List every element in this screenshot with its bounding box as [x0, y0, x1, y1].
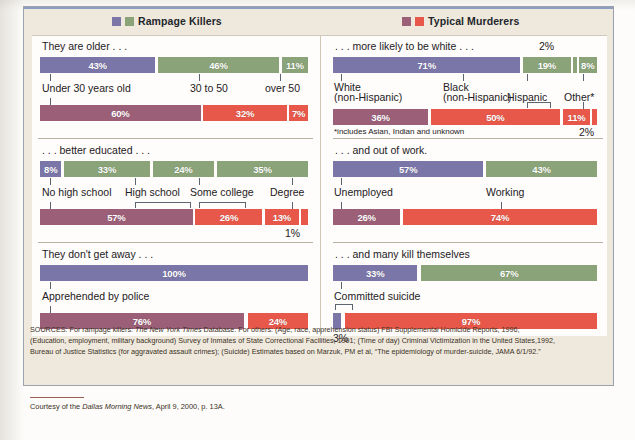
- block-race-title: . . . more likely to be white . . .: [335, 40, 474, 52]
- label-edu-nohs: No high school: [42, 186, 111, 198]
- block-suicide-bar-rampage: 33% 67%: [333, 265, 597, 281]
- seg-race-r-hispanic: [573, 57, 577, 73]
- courtesy-note: Courtesy of the Dallas Morning News, Apr…: [30, 402, 225, 411]
- label-race-other: Other*: [564, 91, 594, 103]
- legend-item-rampage-killers: Rampage Killers: [112, 15, 222, 27]
- left-column: They are older . . . 43% 46% 11% Under 3…: [32, 36, 319, 336]
- seg-race-t-white: 36%: [333, 109, 428, 125]
- seg-edu-t-hs: 26%: [195, 209, 262, 225]
- block-education-bar-rampage: 8% 33% 24% 35%: [40, 161, 308, 177]
- label-race-t-other-value: 2%: [579, 126, 594, 138]
- seg-emp-r-working: 43%: [486, 161, 597, 177]
- legend: Rampage Killers Typical Murderers: [24, 15, 615, 33]
- seg-appr-r-all: 100%: [40, 265, 308, 281]
- brace-edu-hs: [135, 202, 191, 208]
- seg-sui-r-yes: 33%: [333, 265, 417, 281]
- label-emp-working: Working: [486, 186, 524, 198]
- seg-emp-t-unemployed: 26%: [333, 209, 400, 225]
- seg-edu-t-degree: [301, 209, 308, 225]
- seg-age-r-30to50: 46%: [158, 57, 278, 73]
- courtesy-suffix: , April 9, 2000, p. 13A.: [152, 402, 225, 411]
- seg-race-r-other: 8%: [579, 57, 597, 73]
- block-race: . . . more likely to be white . . . 2% 7…: [321, 40, 608, 136]
- block-employment-bar-rampage: 57% 43%: [333, 161, 597, 177]
- label-race-r-hispanic-value: 2%: [539, 40, 554, 52]
- courtesy-prefix: Courtesy of the: [30, 402, 82, 411]
- sources-nyt-italic: The New York Times: [135, 325, 202, 334]
- seg-edu-r-degree: 35%: [217, 161, 308, 177]
- block-education-title: . . . better educated . . .: [42, 144, 150, 156]
- seg-race-t-hispanic: 11%: [563, 109, 591, 125]
- divider-left-2: [38, 242, 313, 243]
- seg-emp-t-working: 74%: [403, 209, 597, 225]
- chart-canvas: They are older . . . 43% 46% 11% Under 3…: [32, 35, 607, 336]
- label-edu-hs: High school: [125, 186, 180, 198]
- block-age-bar-typical: 60% 32% 7%: [40, 105, 308, 121]
- seg-age-t-over50: 7%: [289, 105, 308, 121]
- brace-race-hispanic: [527, 102, 551, 108]
- tick-edu-typical-degree: [292, 202, 293, 209]
- label-race-black-line2: (non-Hispanic): [443, 91, 511, 103]
- label-sui-committed: Committed suicide: [334, 290, 420, 302]
- tick-age-over50: [280, 74, 281, 81]
- seg-edu-r-nohs: 8%: [40, 161, 61, 177]
- tick-edu-nohs: [50, 178, 51, 185]
- legend-label-rampage-killers: Rampage Killers: [138, 15, 222, 27]
- seg-sui-r-no: 67%: [421, 265, 597, 281]
- tick-sui-committed: [341, 282, 342, 289]
- tick-race-black: [463, 74, 464, 81]
- seg-emp-r-unemployed: 57%: [333, 161, 483, 177]
- tick-appr-typical: [50, 306, 51, 313]
- sources-line-3: Bureau of Justice Statistics (for aggrav…: [30, 347, 590, 358]
- divider-right-1: [333, 138, 603, 139]
- seg-edu-r-some: 24%: [153, 161, 215, 177]
- legend-swatch-green: [125, 17, 134, 26]
- label-edu-some: Some college: [190, 186, 254, 198]
- label-age-under30: Under 30 years old: [42, 82, 131, 94]
- tick-race-white: [341, 74, 342, 81]
- seg-edu-t-some: 13%: [265, 209, 299, 225]
- tick-race-t-other: [583, 102, 584, 109]
- tick-age-30to50: [199, 74, 200, 81]
- seg-age-t-under30: 60%: [40, 105, 201, 121]
- tick-appr-apprehended: [50, 282, 51, 289]
- label-emp-unemployed: Unemployed: [334, 186, 393, 198]
- tick-edu-typical-nohs: [50, 202, 51, 209]
- courtesy-divider: [30, 397, 84, 398]
- label-age-30to50: 30 to 50: [190, 82, 228, 94]
- seg-race-t-other: [592, 109, 597, 125]
- tick-edu-hs: [135, 178, 136, 185]
- block-race-bar-rampage: 71% 19% 8%: [333, 57, 597, 73]
- tick-emp-t-working: [501, 202, 502, 209]
- seg-age-r-over50: 11%: [282, 57, 308, 73]
- brace-sui-committed: [335, 304, 353, 310]
- right-column: . . . more likely to be white . . . 2% 7…: [320, 36, 608, 336]
- legend-swatch-maroon: [402, 17, 411, 26]
- seg-race-r-black: 19%: [523, 57, 571, 73]
- block-education: . . . better educated . . . 8% 33% 24% 3…: [32, 144, 319, 240]
- sources-line-2: (Education, employment, military backgro…: [30, 336, 590, 347]
- seg-race-r-white: 71%: [333, 57, 520, 73]
- tick-race-hispanic: [527, 74, 528, 81]
- seg-age-r-under30: 43%: [40, 57, 155, 73]
- label-age-over50: over 50: [265, 82, 300, 94]
- block-suicide-title: . . . and many kill themselves: [335, 248, 470, 260]
- legend-swatch-purple: [112, 17, 121, 26]
- chart-frame: Rampage Killers Typical Murderers They a…: [23, 6, 614, 386]
- block-age-bar-rampage: 43% 46% 11%: [40, 57, 308, 73]
- tick-race-other: [583, 74, 584, 81]
- seg-edu-r-hs: 33%: [64, 161, 150, 177]
- brace-edu-some: [199, 202, 246, 208]
- block-apprehension-title: They don't get away . . .: [42, 248, 153, 260]
- sources-note: SOURCES: For rampage killers: The New Yo…: [30, 325, 590, 358]
- label-appr-apprehended: Apprehended by police: [42, 290, 149, 302]
- divider-right-2: [333, 242, 603, 243]
- block-apprehension-bar-rampage: 100%: [40, 265, 308, 281]
- block-employment-title: . . . and out of work.: [335, 144, 427, 156]
- block-employment: . . . and out of work. 57% 43% Unemploye…: [321, 144, 608, 240]
- sources-line-1-prefix: SOURCES: For rampage killers:: [30, 325, 135, 334]
- seg-age-t-30to50: 32%: [203, 105, 286, 121]
- label-race-white-line2: (non-Hispanic): [334, 91, 402, 103]
- block-age-title: They are older . . .: [42, 40, 127, 52]
- legend-swatch-red: [415, 17, 424, 26]
